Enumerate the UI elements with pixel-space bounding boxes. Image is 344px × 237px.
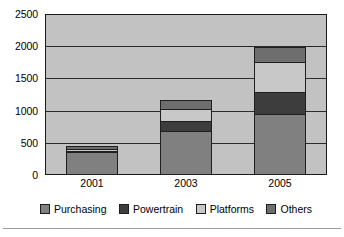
- legend-swatch-purchasing: [40, 204, 50, 214]
- bars-layer: [45, 14, 327, 175]
- x-axis-tick-label: 2001: [80, 177, 103, 189]
- legend-swatch-powertrain: [119, 204, 129, 214]
- x-axis-tick-label: 2005: [268, 177, 291, 189]
- legend-label: Platforms: [210, 203, 254, 215]
- y-axis-tick-label: 2000: [15, 40, 38, 52]
- bar-segment-platforms[interactable]: [254, 62, 306, 92]
- legend-item-powertrain[interactable]: Powertrain: [119, 203, 183, 215]
- bar-group[interactable]: [160, 14, 212, 175]
- bottom-divider: [3, 228, 341, 229]
- legend-swatch-platforms: [196, 204, 206, 214]
- y-axis-tick-label: 1500: [15, 72, 38, 84]
- bar-segment-purchasing[interactable]: [160, 131, 212, 175]
- x-axis: 200120032005: [45, 177, 327, 193]
- y-axis-tick-label: 500: [21, 137, 38, 149]
- bar-segment-purchasing[interactable]: [254, 114, 306, 175]
- y-axis-tick-label: 2500: [15, 8, 38, 20]
- bar-group[interactable]: [66, 14, 118, 175]
- bar-stack: [254, 47, 306, 175]
- legend-swatch-others: [266, 204, 276, 214]
- bar-stack: [160, 100, 212, 175]
- legend-item-platforms[interactable]: Platforms: [196, 203, 254, 215]
- chart-figure: 05001000150020002500 200120032005 Purcha…: [0, 0, 344, 237]
- bar-segment-powertrain[interactable]: [254, 92, 306, 115]
- bar-group[interactable]: [254, 14, 306, 175]
- bar-stack: [66, 146, 118, 175]
- bar-segment-others[interactable]: [254, 47, 306, 63]
- legend-item-others[interactable]: Others: [266, 203, 312, 215]
- legend-item-purchasing[interactable]: Purchasing: [40, 203, 107, 215]
- y-axis-tick-label: 1000: [15, 105, 38, 117]
- legend-label: Powertrain: [133, 203, 183, 215]
- legend-label: Others: [280, 203, 312, 215]
- chart-legend: PurchasingPowertrainPlatformsOthers: [40, 201, 312, 217]
- bar-segment-purchasing[interactable]: [66, 152, 118, 175]
- legend-label: Purchasing: [54, 203, 107, 215]
- x-axis-tick-label: 2003: [174, 177, 197, 189]
- y-axis-tick-label: 0: [32, 169, 38, 181]
- y-axis: 05001000150020002500: [0, 14, 43, 175]
